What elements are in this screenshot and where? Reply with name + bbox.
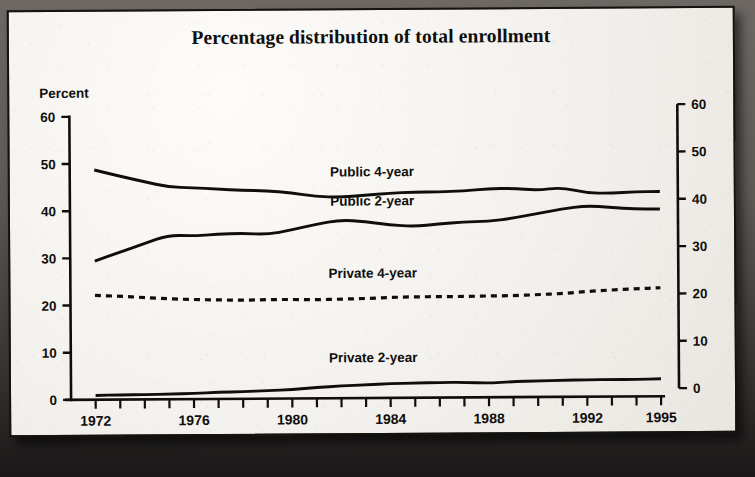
right-axis-tick-label: 20: [692, 286, 707, 301]
series-label-private-2-year: Private 2-year: [329, 350, 418, 366]
series-label-public-2-year: Public 2-year: [330, 193, 415, 209]
x-axis-tick-label: 1988: [473, 410, 504, 426]
left-axis-tick-label: 50: [41, 157, 56, 172]
series-line-private-2-year: [96, 379, 661, 396]
right-axis-tick-label: 10: [693, 334, 708, 349]
right-axis-tick-label: 50: [692, 144, 707, 159]
x-axis-tick-label: 1972: [80, 413, 111, 429]
left-axis-tick-label: 0: [50, 393, 58, 408]
series-line-public-2-year: [95, 206, 661, 261]
left-axis-tick-label: 10: [42, 346, 57, 361]
x-axis-tick-label: 1976: [178, 412, 209, 428]
right-axis-tick-label: 0: [693, 381, 701, 396]
left-axis-tick-label: 40: [41, 204, 56, 219]
x-axis-tick-label: 1980: [277, 411, 308, 427]
left-axis-tick-label: 60: [40, 110, 55, 125]
y-axis-caption: Percent: [39, 86, 89, 101]
x-axis-tick-label: 1995: [646, 409, 677, 425]
right-axis-tick-label: 60: [691, 97, 706, 112]
series-line-private-4-year: [95, 288, 660, 301]
enrollment-line-chart: 01020304050600102030405060Percent1972197…: [9, 8, 736, 435]
series-label-public-4-year: Public 4-year: [330, 164, 415, 180]
scanned-page-sheet: Percentage distribution of total enrollm…: [7, 6, 738, 437]
series-label-private-4-year: Private 4-year: [328, 265, 417, 281]
x-axis-tick-label: 1984: [375, 411, 406, 427]
x-axis-tick-label: 1992: [572, 410, 603, 426]
left-axis-tick-label: 30: [41, 251, 56, 266]
screenshot-root: Percentage distribution of total enrollm…: [0, 0, 755, 477]
right-axis-tick-label: 30: [692, 239, 707, 254]
right-axis-tick-label: 40: [692, 192, 707, 207]
left-axis-tick-label: 20: [41, 299, 56, 314]
